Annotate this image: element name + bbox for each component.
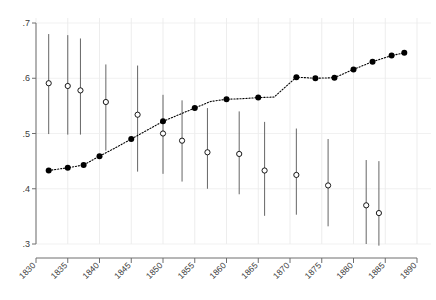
data-point-filled — [97, 153, 103, 159]
data-point-filled — [312, 75, 318, 81]
data-point-filled — [128, 136, 134, 142]
x-tick-label: 1835 — [49, 260, 70, 281]
data-point-open — [376, 210, 381, 215]
y-tick-label: .6 — [22, 73, 30, 83]
y-tick-label: .3 — [22, 239, 30, 249]
data-point-filled — [351, 66, 357, 72]
data-point-open — [262, 168, 267, 173]
chart-container: .3.4.5.6.7 18301835184018451850185518601… — [0, 0, 436, 300]
x-tick-label: 1885 — [366, 260, 387, 281]
x-tick-label: 1840 — [80, 260, 101, 281]
data-point-open — [205, 150, 210, 155]
x-tick-label: 1890 — [398, 260, 419, 281]
data-point-filled — [46, 168, 52, 174]
x-tick-label: 1865 — [239, 260, 260, 281]
data-point-filled — [255, 95, 261, 101]
x-tick-label: 1875 — [303, 260, 324, 281]
x-tick-label: 1880 — [334, 260, 355, 281]
data-point-open — [135, 112, 140, 117]
data-point-open — [237, 151, 242, 156]
data-point-filled — [389, 53, 395, 59]
x-tick-label: 1855 — [176, 260, 197, 281]
x-tick-label: 1870 — [271, 260, 292, 281]
data-point-open — [78, 88, 83, 93]
x-tick-label: 1850 — [144, 260, 165, 281]
error-bars — [49, 34, 379, 246]
data-point-open — [294, 172, 299, 177]
y-tick-label: .5 — [22, 129, 30, 139]
x-tick-label: 1830 — [17, 260, 38, 281]
data-point-filled — [224, 96, 230, 102]
data-point-filled — [293, 74, 299, 80]
data-point-filled — [160, 118, 166, 124]
y-tick-labels: .3.4.5.6.7 — [22, 18, 30, 249]
y-tick-label: .7 — [22, 18, 30, 28]
data-point-filled — [65, 165, 71, 171]
data-point-open — [65, 83, 70, 88]
scatter-plot-svg: .3.4.5.6.7 18301835184018451850185518601… — [0, 0, 436, 300]
data-point-open — [179, 138, 184, 143]
data-point-open — [103, 99, 108, 104]
data-point-open — [46, 81, 51, 86]
x-tick-labels: 1830183518401845185018551860186518701875… — [17, 260, 419, 281]
y-tick-label: .4 — [22, 184, 30, 194]
x-tick-label: 1860 — [207, 260, 228, 281]
data-point-filled — [401, 50, 407, 56]
x-tick-label: 1845 — [112, 260, 133, 281]
data-point-filled — [192, 105, 198, 111]
y-axis — [32, 23, 36, 244]
data-point-open — [160, 131, 165, 136]
grid-lines — [36, 18, 431, 244]
data-point-open — [326, 183, 331, 188]
data-point-filled — [81, 162, 87, 168]
data-point-filled — [370, 59, 376, 65]
data-point-filled — [331, 75, 337, 81]
data-point-open — [364, 203, 369, 208]
